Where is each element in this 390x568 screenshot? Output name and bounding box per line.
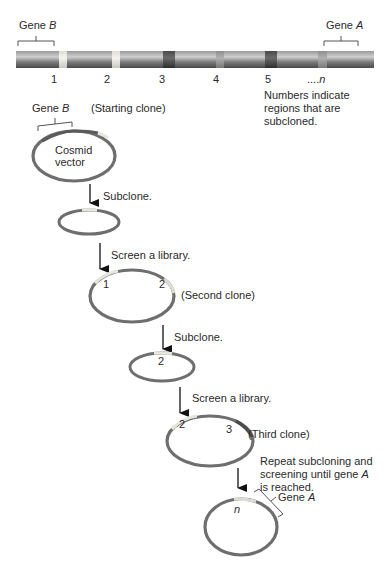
second-clone-region-2: 2 [159, 278, 165, 290]
starting-gene-b-label: Gene B [32, 102, 69, 115]
second-clone-region-1: 1 [103, 278, 109, 290]
band-region-5 [265, 51, 277, 68]
starting-gene-b-bracket [38, 118, 72, 131]
subclone-2-region: 2 [158, 355, 164, 367]
third-clone-caption: (Third clone) [248, 428, 310, 441]
starting-clone-caption: (Starting clone) [91, 102, 166, 115]
final-clone-region-n: n [234, 503, 240, 515]
step-subclone-2: Subclone. [174, 331, 223, 344]
band-region-4 [216, 51, 224, 68]
region-label-2: 2 [104, 73, 110, 85]
band-region-1 [59, 51, 67, 68]
third-clone-region-3: 3 [226, 423, 232, 435]
step-repeat: Repeat subcloning and screening until ge… [260, 455, 373, 494]
subclone-1-ring [59, 210, 119, 234]
gene-a-bracket [324, 36, 358, 46]
step-screen-1: Screen a library. [111, 249, 190, 262]
gene-b-bracket [18, 36, 54, 46]
final-gene-a-label: Gene A [278, 491, 315, 504]
band-region-3 [163, 51, 175, 68]
region-label-3: 3 [159, 73, 165, 85]
band-region-2 [112, 51, 120, 68]
band-region-n [318, 51, 327, 68]
chromosome [16, 51, 374, 68]
region-label-5: 5 [265, 73, 271, 85]
region-label-n: ....n [307, 73, 325, 85]
chrom-gene-a-label: Gene A [326, 19, 363, 32]
step-screen-2: Screen a library. [192, 392, 271, 405]
second-clone-caption: (Second clone) [181, 289, 255, 302]
third-clone-region-2: 2 [179, 418, 185, 430]
region-label-1: 1 [51, 73, 57, 85]
regions-note: Numbers indicate regions that are subclo… [264, 89, 350, 128]
final-clone-ring [205, 499, 277, 555]
chrom-gene-b-label: Gene B [19, 19, 56, 32]
cosmid-vector-label: Cosmid vector [55, 144, 92, 168]
region-label-4: 4 [213, 73, 219, 85]
step-subclone-1: Subclone. [103, 190, 152, 203]
